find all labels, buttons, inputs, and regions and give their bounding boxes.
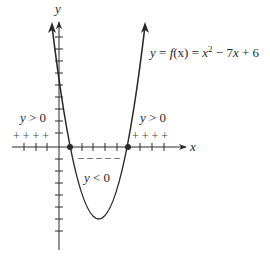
root-point-1 <box>67 144 73 150</box>
y-axis-label: y <box>53 1 61 16</box>
left-positive-label: y > 0 <box>18 110 46 125</box>
negative-marks: – – – – – <box>77 150 121 164</box>
x-axis-label: x <box>189 139 196 154</box>
root-point-6 <box>125 144 131 150</box>
parabola-curve <box>52 26 145 219</box>
equation-label: y = f(x) = x2 − 7x + 6 <box>148 44 260 60</box>
positive-marks-right: + + + + <box>132 129 168 143</box>
right-positive-label: y > 0 <box>138 110 166 125</box>
parabola-diagram: x y + + + + + + + + <box>0 0 270 260</box>
negative-label: y < 0 <box>82 170 110 185</box>
y-axis: y <box>53 1 63 250</box>
positive-marks-left: + + + + <box>13 129 49 143</box>
